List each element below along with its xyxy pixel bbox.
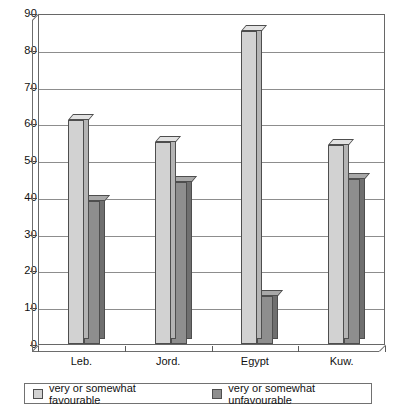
gridline: [39, 52, 384, 53]
x-axis-category-label: Kuw.: [302, 355, 382, 367]
bar-side-face: [360, 174, 365, 340]
bar-front-face: [155, 142, 171, 344]
legend: very or somewhat favourablevery or somew…: [24, 383, 372, 404]
x-axis-category-label: Jord.: [128, 355, 208, 367]
x-axis-tick-mark: [298, 346, 299, 352]
legend-item: very or somewhat favourable: [33, 382, 180, 406]
bar-front-face: [68, 120, 84, 344]
bar-front-face: [328, 145, 344, 344]
x-axis-tick-mark: [38, 346, 39, 352]
bar: [328, 145, 344, 344]
x-axis-category-label: Egypt: [215, 355, 295, 367]
bar-side-face: [273, 291, 278, 339]
y-axis-outer-line: [32, 20, 33, 351]
bar-side-face: [344, 140, 349, 339]
x-axis-outer-line: [32, 351, 379, 352]
bar: [68, 120, 84, 344]
x-axis-category-label: Leb.: [41, 355, 121, 367]
bar: [155, 142, 171, 344]
dark-gray-swatch: [212, 389, 222, 399]
x-axis-tick-mark: [125, 346, 126, 352]
legend-label: very or somewhat favourable: [49, 382, 180, 406]
bar-side-face: [187, 177, 192, 339]
x-axis-tick-mark: [385, 346, 386, 352]
legend-label: very or somewhat unfavourable: [228, 382, 371, 406]
plot-area: [38, 14, 385, 345]
gridline: [39, 89, 384, 90]
bar-side-face: [84, 115, 89, 339]
light-gray-swatch: [33, 389, 43, 399]
bar-chart: 0102030405060708090 Leb.Jord.EgyptKuw. v…: [0, 0, 395, 412]
bar-front-face: [241, 31, 257, 344]
x-axis-tick-mark: [212, 346, 213, 352]
gridline: [39, 125, 384, 126]
bar: [241, 31, 257, 344]
bar-side-face: [257, 26, 262, 339]
legend-item: very or somewhat unfavourable: [212, 382, 371, 406]
bar-side-face: [171, 137, 176, 339]
bar-side-face: [100, 196, 105, 339]
